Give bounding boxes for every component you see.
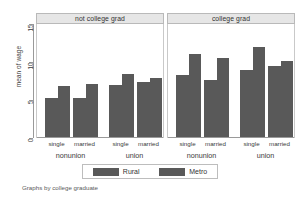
x-tick-label-married: married (130, 140, 167, 147)
bar-rural-2 (109, 85, 122, 137)
panel-title: not college grad (75, 15, 125, 22)
legend-label-metro: Metro (189, 168, 207, 175)
legend-item-rural: Rural (93, 168, 140, 176)
bar-rural-0 (176, 75, 189, 137)
x-tick-label-married: married (197, 140, 234, 147)
x-axis-baseline (37, 137, 163, 138)
bar-rural-1 (73, 98, 86, 137)
legend-swatch-rural (93, 168, 119, 176)
bar-metro-2 (122, 74, 135, 137)
y-tick-label: 15 (27, 24, 34, 38)
bar-metro-3 (150, 78, 163, 137)
bar-metro-3 (281, 61, 294, 137)
x-tick-label-married: married (66, 140, 103, 147)
y-axis-line (33, 24, 34, 138)
plot-area (167, 24, 295, 138)
figure-caption: Graphs by college graduate (22, 184, 98, 191)
y-tick-label: 10 (27, 62, 34, 76)
panel-college-grad: college grad (167, 13, 295, 138)
bar-rural-0 (45, 98, 58, 137)
bar-rural-3 (137, 82, 150, 137)
bar-metro-1 (217, 58, 230, 137)
legend-label-rural: Rural (123, 168, 140, 175)
panel-not-college-grad: not college grad (36, 13, 164, 138)
x-tick-label-married: married (261, 140, 298, 147)
x-group-label-union: union (241, 151, 291, 160)
legend-swatch-metro (159, 168, 185, 176)
y-tick-label: 5 (27, 100, 34, 114)
panel-header: not college grad (36, 13, 164, 24)
chart-figure: mean of wage 051015 not college grad col… (0, 0, 300, 199)
bar-metro-2 (253, 47, 266, 137)
y-axis-title: mean of wage (15, 12, 22, 122)
bars-layer-0 (37, 24, 163, 138)
panel-header: college grad (167, 13, 295, 24)
x-group-label-nonunion: nonunion (46, 151, 96, 160)
bar-rural-2 (240, 70, 253, 137)
plot-area (36, 24, 164, 138)
bar-metro-0 (189, 54, 202, 137)
bars-layer-1 (168, 24, 294, 138)
x-group-label-nonunion: nonunion (177, 151, 227, 160)
bar-metro-1 (86, 84, 99, 137)
x-axis-baseline (168, 137, 294, 138)
bar-rural-3 (268, 66, 281, 137)
panel-title: college grad (212, 15, 250, 22)
bar-metro-0 (58, 86, 71, 137)
x-group-label-union: union (110, 151, 160, 160)
y-tick-label: 0 (27, 138, 34, 152)
bar-rural-1 (204, 80, 217, 137)
legend: Rural Metro (82, 164, 218, 179)
legend-item-metro: Metro (159, 168, 207, 176)
